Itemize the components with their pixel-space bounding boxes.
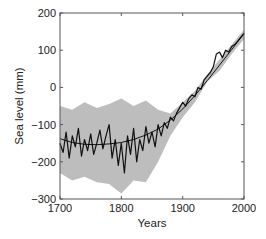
- x-tick-label: 1900: [170, 202, 194, 214]
- y-tick-label: 200: [38, 7, 56, 19]
- plot-area: [60, 30, 244, 194]
- y-tick-label: −200: [31, 156, 56, 168]
- x-tick-label: 1800: [109, 202, 133, 214]
- sea-level-chart: 1700180019002000 −300−200−1000100200 Yea…: [0, 0, 266, 239]
- y-tick-label: 100: [38, 44, 56, 56]
- y-tick-label: 0: [50, 81, 56, 93]
- x-axis-label: Years: [138, 217, 167, 229]
- y-tick-label: −100: [31, 119, 56, 131]
- y-tick-label: −300: [31, 193, 56, 205]
- x-tick-label: 2000: [232, 202, 256, 214]
- y-axis-label: Sea level (mm): [13, 67, 25, 144]
